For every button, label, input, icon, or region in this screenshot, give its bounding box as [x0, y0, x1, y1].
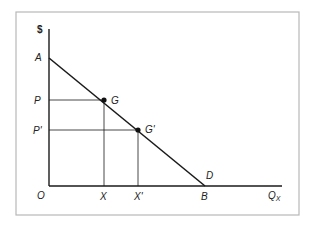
x-axis-label-sub: X: [275, 195, 281, 202]
demand-diagram: $ A P P' G G' D O X X' B QX: [0, 0, 316, 229]
point-d-label: D: [206, 170, 213, 181]
diagram-frame: [16, 12, 299, 215]
tick-p-label: P: [34, 95, 41, 106]
tick-x-prime-label: X': [133, 191, 144, 202]
point-a-label: A: [34, 52, 42, 63]
tick-x-label: X: [99, 191, 107, 202]
point-g-prime-label: G': [145, 124, 156, 135]
point-g-label: G: [111, 95, 119, 106]
origin-label: O: [37, 190, 45, 201]
point-b-label: B: [201, 191, 208, 202]
point-g: [101, 97, 106, 102]
y-axis-label: $: [37, 24, 43, 35]
point-g-prime: [135, 127, 140, 132]
tick-p-prime-label: P': [33, 125, 43, 136]
